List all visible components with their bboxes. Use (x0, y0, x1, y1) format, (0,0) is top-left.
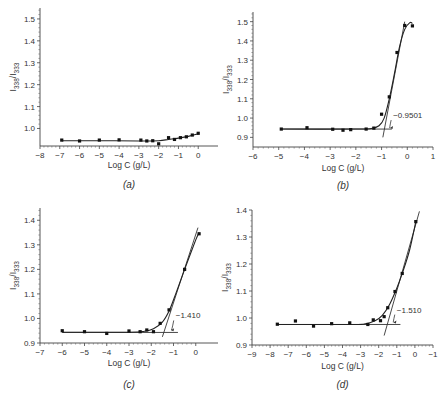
y-tick-label: 1.2 (24, 81, 36, 90)
x-tick-label: −8 (35, 151, 45, 160)
x-tick-label: 0 (194, 348, 199, 357)
x-tick-label: −3 (326, 152, 336, 161)
data-point-marker (197, 232, 200, 235)
x-tick-label: −4 (338, 350, 348, 359)
y-tick-label: 1.2 (236, 260, 248, 269)
data-point-marker (83, 330, 86, 333)
x-tick-label: −6 (248, 152, 258, 161)
x-tick-label: −7 (284, 350, 294, 359)
data-point-marker (183, 268, 186, 271)
data-point-marker (179, 136, 182, 139)
x-axis-label: Log C (g/L) (321, 361, 364, 371)
data-point-marker (145, 328, 148, 331)
data-point-marker (276, 323, 279, 326)
data-point-marker (388, 95, 391, 98)
data-point-marker (197, 132, 200, 135)
x-tick-label: 0 (196, 151, 201, 160)
x-axis-label: Log C (g/L) (108, 160, 151, 170)
data-point-marker (105, 332, 108, 335)
panel-label: (b) (337, 180, 349, 191)
x-tick-label: −5 (274, 152, 284, 161)
data-point-marker (305, 126, 308, 129)
x-tick-label: −7 (55, 151, 65, 160)
x-tick-label: −4 (102, 348, 112, 357)
x-tick-label: −6 (302, 350, 312, 359)
y-tick-label: 1.5 (24, 15, 36, 24)
x-tick-label: −1 (169, 348, 179, 357)
data-point-marker (349, 128, 352, 131)
y-tick-label: 1.5 (237, 18, 249, 27)
data-point-marker (393, 290, 396, 293)
data-point-marker (118, 138, 121, 141)
chart-panel-d: −9−8−7−6−5−4−3−2−10−10.91.01.11.21.31.4L… (220, 206, 438, 390)
y-tick-label: 0.9 (24, 339, 36, 348)
y-tick-label: 1.3 (237, 56, 249, 65)
data-point-marker (191, 133, 194, 136)
data-point-marker (341, 129, 344, 132)
x-axis-label: Log C (g/L) (108, 358, 151, 368)
x-tick-label: −8 (266, 350, 276, 359)
data-point-marker (401, 272, 404, 275)
y-tick-label: 1.0 (237, 114, 249, 123)
data-point-marker (167, 308, 170, 311)
data-point-marker (151, 139, 154, 142)
data-point-marker (379, 319, 382, 322)
y-tick-label: 1.1 (237, 95, 249, 104)
y-tick-label: 1.4 (236, 206, 248, 215)
data-point-marker (383, 315, 386, 318)
x-tick-label: −5 (80, 348, 90, 357)
y-axis-label: I338/I333 (221, 65, 233, 94)
y-tick-label: 1.0 (24, 314, 36, 323)
x-tick-label: −3 (356, 350, 366, 359)
data-point-marker (139, 138, 142, 141)
y-tick-label: 1.1 (24, 103, 36, 112)
x-tick-label: 1 (431, 152, 436, 161)
y-tick-label: 1.0 (236, 314, 248, 323)
x-tick-label: −1 (174, 151, 184, 160)
fit-curve (277, 222, 415, 325)
y-tick-label: 1.3 (24, 241, 36, 250)
data-point-marker (372, 127, 375, 130)
chart-panel-c: −7−6−5−4−3−2−100.91.01.11.21.31.4Log C (… (8, 208, 218, 390)
data-point-marker (60, 138, 63, 141)
y-tick-label: 1.1 (24, 290, 36, 299)
x-tick-label: −5 (95, 151, 105, 160)
data-point-marker (185, 135, 188, 138)
y-axis-label: I338/I333 (8, 261, 20, 290)
data-point-marker (372, 318, 375, 321)
chart-panel-a: −8−7−6−5−4−3−2−101.01.11.21.31.41.5Log C… (8, 8, 218, 190)
y-tick-label: 0.9 (236, 341, 248, 350)
annotation-arrow (390, 120, 391, 128)
data-point-marker (280, 127, 283, 130)
panel-label: (c) (123, 379, 135, 390)
data-point-marker (386, 306, 389, 309)
figure-canvas: −8−7−6−5−4−3−2−101.01.11.21.31.41.5Log C… (0, 0, 445, 402)
y-tick-label: 0.9 (237, 133, 249, 142)
x-tick-label: −9 (247, 350, 257, 359)
data-point-marker (414, 220, 417, 223)
panel-label: (a) (123, 179, 135, 190)
y-tick-label: 1.1 (236, 287, 248, 296)
y-tick-label: 1.3 (236, 233, 248, 242)
y-tick-label: 1.3 (24, 59, 36, 68)
annotation-arrow (393, 315, 395, 323)
x-tick-label: −3 (134, 151, 144, 160)
panel-label: (d) (336, 379, 348, 390)
y-axis-label: I338/I333 (220, 263, 232, 292)
data-point-marker (403, 24, 406, 27)
x-tick-label: 0 (413, 350, 418, 359)
cmc-annotation-label: −1.410 (176, 311, 201, 320)
data-point-marker (366, 323, 369, 326)
data-point-marker (145, 139, 148, 142)
x-tick-label: −3 (124, 348, 134, 357)
x-tick-label: −4 (115, 151, 125, 160)
x-tick-label: −1 (392, 350, 402, 359)
data-point-marker (173, 138, 176, 141)
data-point-marker (380, 113, 383, 116)
y-tick-label: 1.4 (237, 37, 249, 46)
x-tick-label: −7 (35, 348, 45, 357)
x-tick-label: −2 (154, 151, 164, 160)
data-point-marker (98, 138, 101, 141)
data-point-marker (61, 329, 64, 332)
data-point-marker (348, 321, 351, 324)
